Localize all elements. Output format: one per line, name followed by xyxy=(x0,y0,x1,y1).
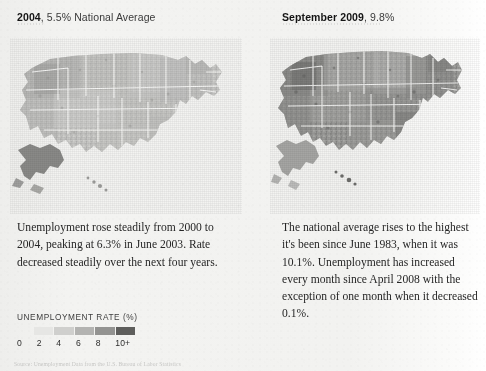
legend-tick-labels: 0 2 4 6 8 10+ xyxy=(17,338,135,348)
alaska-inset-2004 xyxy=(12,144,64,194)
legend-tick: 8 xyxy=(96,338,116,348)
panel-2004: 2004, 5.5% National Average xyxy=(0,0,262,371)
legend-tick: 4 xyxy=(56,338,76,348)
legend-tick: 6 xyxy=(76,338,96,348)
panel-body-2004: Unemployment rose steadily from 2000 to … xyxy=(17,219,233,271)
legend-color-ramp xyxy=(34,327,135,335)
legend-tick: 10+ xyxy=(115,338,135,348)
legend-title: UNEMPLOYMENT RATE (%) xyxy=(17,312,138,322)
panel-title-2004: 2004, 5.5% National Average xyxy=(17,11,156,23)
us-map-sep-2009-svg xyxy=(270,38,480,214)
title-underline-artifact xyxy=(18,23,44,25)
legend: UNEMPLOYMENT RATE (%) 0 2 4 6 8 10+ xyxy=(17,312,138,348)
hawaii-inset-2004 xyxy=(87,177,108,192)
panel-title-month-year: September 2009 xyxy=(282,11,364,23)
alaska-inset-sep-2009 xyxy=(271,140,319,190)
panel-body-sep-2009: The national average rises to the highes… xyxy=(282,219,482,323)
panel-title-year: 2004 xyxy=(17,11,41,23)
panel-sep-2009: September 2009, 9.8% xyxy=(262,0,486,371)
figure-canvas: 2004, 5.5% National Average xyxy=(0,0,486,371)
legend-swatch-1 xyxy=(54,327,73,335)
us-map-2004-svg xyxy=(10,38,242,214)
panel-title-2009: September 2009, 9.8% xyxy=(282,11,394,23)
source-footnote: Source: Unemployment Data from the U.S. … xyxy=(14,361,181,367)
us-map-sep-2009 xyxy=(270,38,480,214)
mainland-sep-2009 xyxy=(270,38,480,214)
hawaii-inset-sep-2009 xyxy=(335,171,357,186)
legend-tick: 2 xyxy=(37,338,57,348)
mainland-2004 xyxy=(10,38,242,214)
panel-title-rate: , 9.8% xyxy=(364,11,394,23)
legend-swatch-2 xyxy=(75,327,94,335)
legend-tick: 0 xyxy=(17,338,37,348)
legend-swatch-3 xyxy=(95,327,114,335)
panel-title-rate: , 5.5% National Average xyxy=(41,11,156,23)
legend-swatch-0 xyxy=(34,327,53,335)
title-underline-artifact xyxy=(283,23,381,25)
legend-swatch-4 xyxy=(116,327,135,335)
us-map-2004 xyxy=(10,38,242,214)
